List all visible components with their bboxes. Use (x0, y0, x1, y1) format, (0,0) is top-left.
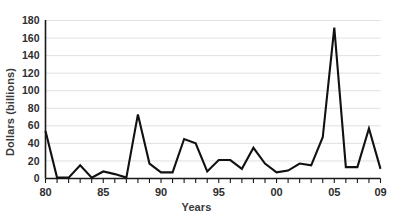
y-tick-label: 0 (34, 172, 40, 184)
plot-area: 020406080100120140160180 80859095000509 (0, 0, 393, 224)
gridlines (46, 21, 381, 161)
x-tick-label: 05 (328, 186, 340, 198)
y-tick-label: 140 (22, 49, 40, 61)
x-tick-label: 80 (39, 186, 51, 198)
x-tick-label: 00 (270, 186, 282, 198)
y-tick-label: 180 (22, 14, 40, 26)
x-tick-label: 90 (155, 186, 167, 198)
y-tick-label: 160 (22, 32, 40, 44)
x-tick-label: 09 (374, 186, 386, 198)
y-axis-tick-labels: 020406080100120140160180 (22, 14, 40, 184)
line-chart: Dollars (billions) Years 020406080100120… (0, 0, 393, 224)
y-tick-label: 80 (28, 102, 40, 114)
y-tick-label: 20 (28, 155, 40, 167)
x-axis-tick-labels: 80859095000509 (39, 186, 386, 198)
axis-lines (46, 20, 381, 179)
y-tick-label: 40 (28, 137, 40, 149)
y-tick-label: 120 (22, 67, 40, 79)
x-tick-label: 95 (213, 186, 225, 198)
x-tick-label: 85 (97, 186, 109, 198)
data-series-line (46, 28, 381, 178)
y-tick-label: 60 (28, 119, 40, 131)
y-tick-label: 100 (22, 84, 40, 96)
